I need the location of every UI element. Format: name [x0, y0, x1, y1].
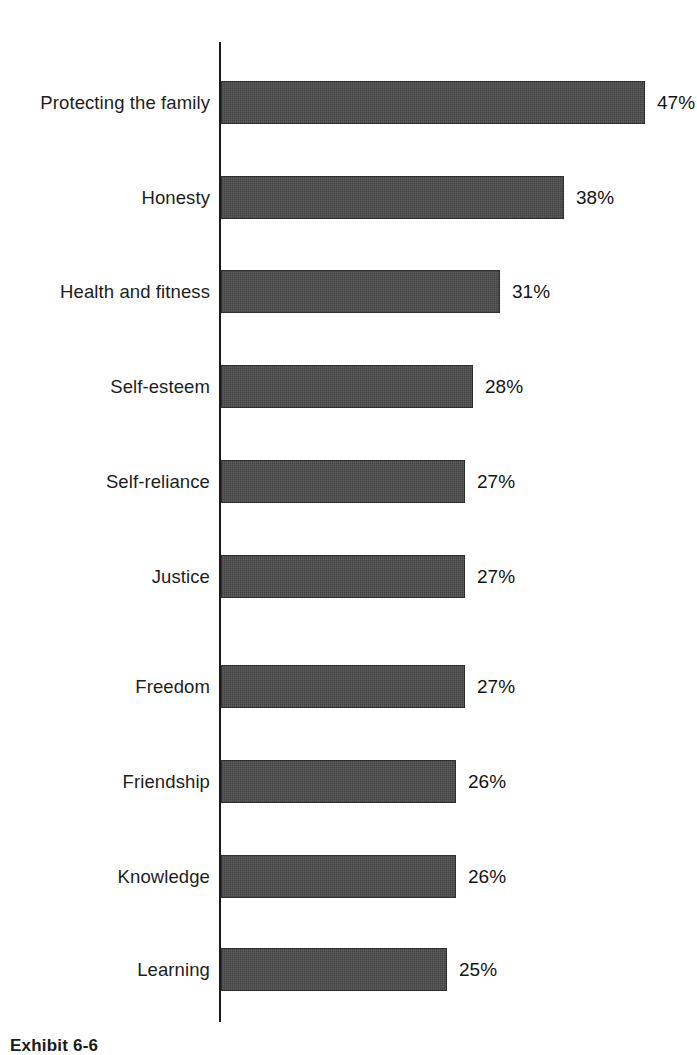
bar-row: Learning 25%: [0, 948, 697, 991]
bar-row: Health and fitness 31%: [0, 270, 697, 313]
bar-value-label: 26%: [468, 760, 506, 803]
bar[interactable]: [221, 948, 447, 991]
horizontal-bar-chart: Protecting the family 47% Honesty 38% He…: [0, 0, 697, 1030]
bar[interactable]: [221, 555, 465, 598]
category-label: Friendship: [0, 760, 210, 803]
bar[interactable]: [221, 665, 465, 708]
bar-row: Self-reliance 27%: [0, 460, 697, 503]
category-label: Self-esteem: [0, 365, 210, 408]
bar-row: Friendship 26%: [0, 760, 697, 803]
bar-value-label: 28%: [485, 365, 523, 408]
bar-row: Honesty 38%: [0, 176, 697, 219]
bar[interactable]: [221, 270, 500, 313]
exhibit-caption: Exhibit 6-6: [10, 1036, 98, 1055]
bar[interactable]: [221, 81, 645, 124]
bar-value-label: 27%: [477, 555, 515, 598]
chart-page: Protecting the family 47% Honesty 38% He…: [0, 0, 697, 1055]
bar-row: Knowledge 26%: [0, 855, 697, 898]
bar-value-label: 38%: [576, 176, 614, 219]
bar-row: Self-esteem 28%: [0, 365, 697, 408]
bar[interactable]: [221, 176, 564, 219]
bar-value-label: 26%: [468, 855, 506, 898]
bar-row: Freedom 27%: [0, 665, 697, 708]
bar[interactable]: [221, 460, 465, 503]
bar-value-label: 27%: [477, 460, 515, 503]
bar[interactable]: [221, 365, 473, 408]
bar-row: Protecting the family 47%: [0, 81, 697, 124]
category-label: Learning: [0, 948, 210, 991]
bar-row: Justice 27%: [0, 555, 697, 598]
bar-value-label: 31%: [512, 270, 550, 313]
category-label: Honesty: [0, 176, 210, 219]
bar[interactable]: [221, 760, 456, 803]
category-label: Freedom: [0, 665, 210, 708]
category-label: Health and fitness: [0, 270, 210, 313]
bar-value-label: 27%: [477, 665, 515, 708]
bar-value-label: 25%: [459, 948, 497, 991]
category-label: Protecting the family: [0, 81, 210, 124]
category-label: Self-reliance: [0, 460, 210, 503]
category-label: Knowledge: [0, 855, 210, 898]
category-label: Justice: [0, 555, 210, 598]
bar-value-label: 47%: [657, 81, 695, 124]
bar[interactable]: [221, 855, 456, 898]
